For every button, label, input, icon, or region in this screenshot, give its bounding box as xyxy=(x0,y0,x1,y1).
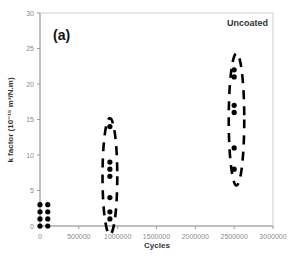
data-point xyxy=(107,160,112,165)
data-point xyxy=(45,223,50,228)
y-tick-label: 15 xyxy=(26,116,34,123)
data-point xyxy=(107,195,112,200)
panel-label: (a) xyxy=(53,27,70,43)
data-point xyxy=(45,202,50,207)
y-tick-label: 30 xyxy=(26,10,34,17)
k-factor-chart: 051015202530 050000010000001500000200000… xyxy=(0,0,299,263)
data-point xyxy=(45,216,50,221)
data-point xyxy=(37,202,42,207)
y-tick-label: 25 xyxy=(26,45,34,52)
data-point xyxy=(37,216,42,221)
data-point xyxy=(37,209,42,214)
plot-area xyxy=(40,13,273,226)
data-point xyxy=(107,167,112,172)
data-point xyxy=(107,174,112,179)
x-tick-label: 2000000 xyxy=(182,233,209,240)
x-tick-label: 1500000 xyxy=(143,233,170,240)
x-tick-label: 2500000 xyxy=(221,233,248,240)
data-point xyxy=(232,110,237,115)
x-axis: 0500000100000015000002000000250000030000… xyxy=(38,226,287,240)
data-point xyxy=(37,223,42,228)
y-axis: 051015202530 xyxy=(26,10,40,230)
x-tick-label: 3000000 xyxy=(259,233,286,240)
data-point xyxy=(232,103,237,108)
y-tick-label: 20 xyxy=(26,81,34,88)
data-point xyxy=(107,216,112,221)
data-point xyxy=(107,124,112,129)
uncoated-annotation: Uncoated xyxy=(227,18,268,28)
y-axis-title: k factor (10⁻¹⁵ m³/N.m) xyxy=(6,77,15,162)
y-tick-label: 5 xyxy=(30,187,34,194)
data-point xyxy=(45,209,50,214)
data-point xyxy=(232,74,237,79)
data-point xyxy=(107,209,112,214)
x-tick-label: 1000000 xyxy=(104,233,131,240)
x-axis-title: Cycles xyxy=(144,241,170,250)
x-tick-label: 0 xyxy=(38,233,42,240)
y-tick-label: 10 xyxy=(26,152,34,159)
y-tick-label: 0 xyxy=(30,223,34,230)
x-tick-label: 500000 xyxy=(67,233,90,240)
data-point xyxy=(232,67,237,72)
data-point xyxy=(232,167,237,172)
data-point xyxy=(232,145,237,150)
